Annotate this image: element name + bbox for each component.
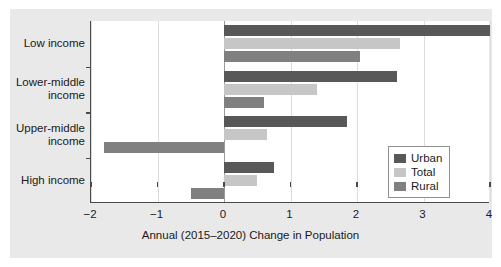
x-tick-label: 2 — [353, 208, 359, 220]
legend-item[interactable]: Urban — [394, 151, 442, 165]
x-tick-mark — [489, 182, 491, 187]
bar — [224, 175, 257, 186]
category-label: Lower-middle income — [16, 76, 85, 102]
chart-figure: −2−101234Low incomeLower-middle incomeUp… — [0, 0, 501, 267]
legend-label-rural: Rural — [411, 180, 438, 192]
legend-swatch-total — [394, 168, 406, 177]
bar — [191, 188, 224, 199]
x-tick-mark — [356, 182, 358, 187]
x-tick-mark — [90, 182, 92, 187]
x-axis-title: Annual (2015–2020) Change in Population — [0, 229, 501, 241]
legend-label-urban: Urban — [411, 152, 442, 164]
chart-legend: Urban Total Rural — [388, 146, 450, 198]
x-tick-mark — [290, 182, 292, 187]
y-tick-mark — [86, 158, 91, 160]
bar — [224, 116, 347, 127]
bar — [224, 129, 267, 140]
x-tick-label: −2 — [83, 208, 96, 220]
bar — [224, 84, 317, 95]
y-tick-mark — [86, 67, 91, 69]
x-tick-label: 0 — [220, 208, 226, 220]
category-label: Low income — [24, 37, 85, 50]
category-label: High income — [21, 174, 85, 187]
legend-swatch-urban — [394, 154, 406, 163]
bar — [224, 25, 490, 36]
legend-item[interactable]: Rural — [394, 179, 442, 193]
bar — [224, 162, 274, 173]
gridline — [158, 21, 159, 202]
x-tick-label: 1 — [286, 208, 292, 220]
category-label: Upper-middle income — [16, 122, 85, 148]
bar — [224, 71, 397, 82]
legend-swatch-rural — [394, 182, 406, 191]
legend-item[interactable]: Total — [394, 165, 442, 179]
gridline — [490, 21, 491, 202]
x-tick-label: 4 — [486, 208, 492, 220]
bar — [104, 142, 224, 153]
x-tick-mark — [223, 182, 225, 187]
legend-label-total: Total — [411, 166, 435, 178]
bar — [224, 51, 360, 62]
x-tick-label: 3 — [419, 208, 425, 220]
bar — [224, 97, 264, 108]
x-tick-label: −1 — [150, 208, 163, 220]
y-tick-mark — [86, 112, 91, 114]
x-tick-mark — [157, 182, 159, 187]
bar — [224, 38, 400, 49]
gridline — [91, 21, 92, 202]
